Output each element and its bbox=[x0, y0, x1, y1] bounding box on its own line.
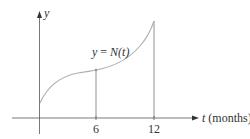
x-axis-unit: (months) bbox=[205, 111, 250, 125]
curve-label: y = N(t) bbox=[91, 45, 129, 59]
curve-label-eq: = bbox=[97, 45, 110, 59]
x-axis-arrow-icon bbox=[192, 116, 199, 121]
tick-label-6: 6 bbox=[93, 122, 99, 136]
curve-N-of-t bbox=[40, 21, 154, 103]
y-axis-arrow-icon bbox=[37, 11, 42, 18]
x-axis-label: t (months) bbox=[202, 111, 250, 125]
point-t6 bbox=[95, 69, 98, 72]
y-axis-label: y bbox=[43, 6, 50, 20]
tick-label-12: 12 bbox=[148, 122, 160, 136]
curve-label-fn: N(t) bbox=[109, 45, 129, 59]
chart-canvas: y y = N(t) t (months) 6 12 bbox=[0, 0, 250, 139]
